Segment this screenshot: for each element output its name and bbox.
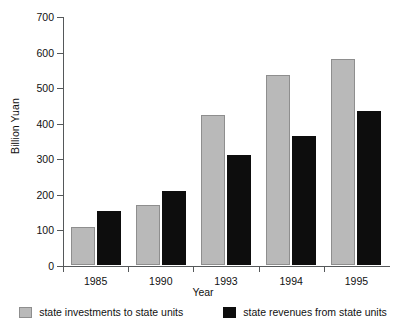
y-axis-tick-label: 400 xyxy=(36,118,54,130)
bar xyxy=(292,136,316,265)
y-axis-tick xyxy=(57,159,63,160)
y-axis-tick-label: 500 xyxy=(36,82,54,94)
x-axis-tick xyxy=(324,267,325,272)
bar xyxy=(162,191,186,265)
x-axis-tick xyxy=(259,267,260,272)
y-axis-tick-label: 0 xyxy=(48,260,54,272)
legend-label: state investments to state units xyxy=(39,306,183,318)
y-axis-title: Billion Yuan xyxy=(9,81,21,171)
y-axis-tick-label: 600 xyxy=(36,47,54,59)
y-axis-tick xyxy=(57,17,63,18)
y-axis-tick-label: 100 xyxy=(36,224,54,236)
bar xyxy=(71,227,95,265)
legend-entry: state revenues from state units xyxy=(223,306,387,318)
bar xyxy=(331,59,355,265)
legend-label: state revenues from state units xyxy=(243,306,387,318)
bar-chart-figure: Billion Yuan 0100200300400500600700 1985… xyxy=(0,0,406,333)
y-axis-tick xyxy=(57,195,63,196)
legend-swatch-icon xyxy=(223,307,236,318)
chart-legend: state investments to state unitsstate re… xyxy=(0,306,406,318)
bar xyxy=(357,111,381,265)
plot-area: 0100200300400500600700 19851990199319941… xyxy=(63,17,389,266)
bar xyxy=(266,75,290,265)
x-axis-tick xyxy=(193,267,194,272)
y-axis-tick-label: 200 xyxy=(36,189,54,201)
y-axis-tick-label: 700 xyxy=(36,11,54,23)
x-axis-tick xyxy=(63,267,64,272)
bar xyxy=(201,115,225,265)
y-axis-tick xyxy=(57,53,63,54)
bar xyxy=(227,155,251,265)
x-axis-title: Year xyxy=(0,286,406,298)
y-axis-tick xyxy=(57,230,63,231)
legend-entry: state investments to state units xyxy=(19,306,183,318)
x-axis-line xyxy=(63,266,390,267)
legend-swatch-icon xyxy=(19,307,32,318)
y-axis-line xyxy=(63,17,64,267)
y-axis-tick xyxy=(57,124,63,125)
y-axis-tick xyxy=(57,88,63,89)
y-axis-tick-label: 300 xyxy=(36,153,54,165)
x-axis-tick xyxy=(128,267,129,272)
bar xyxy=(97,211,121,265)
bar xyxy=(136,205,160,265)
